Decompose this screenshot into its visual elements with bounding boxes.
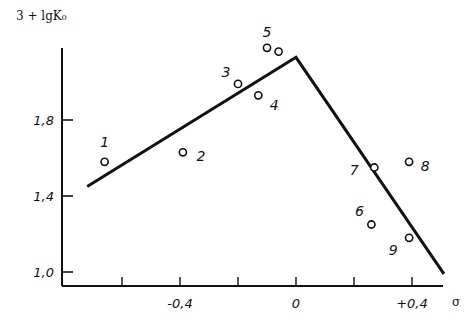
- y-axis-title: 3 + lgK₀: [16, 9, 67, 23]
- x-tick-label: -0,4: [167, 296, 192, 311]
- point-label: 9: [389, 242, 398, 258]
- data-point: [179, 149, 186, 156]
- point-label: 5: [263, 24, 272, 40]
- data-point: [234, 80, 241, 87]
- x-tick-label: 0: [292, 296, 300, 311]
- x-tick-label: +0,4: [396, 296, 428, 311]
- point-label: 7: [350, 162, 359, 178]
- point-label: 4: [270, 97, 279, 113]
- points: 123456789: [100, 24, 430, 258]
- point-label: 1: [100, 134, 109, 150]
- data-point: [263, 44, 270, 51]
- point-label: 8: [421, 158, 430, 174]
- y-tick-label: 1,8: [33, 113, 54, 128]
- data-point: [406, 158, 413, 165]
- y-tick-label: 1,4: [33, 189, 54, 204]
- data-point: [255, 92, 262, 99]
- y-tick-label: 1,0: [33, 265, 54, 280]
- data-point: [275, 48, 282, 55]
- data-point: [368, 221, 375, 228]
- data-point: [101, 158, 108, 165]
- x-axis-title: σ: [452, 295, 460, 309]
- point-label: 3: [222, 64, 231, 80]
- ticks: 1,01,41,8-0,40+0,4: [33, 113, 427, 311]
- data-point: [371, 164, 378, 171]
- chart: 1,01,41,8-0,40+0,4 123456789 3 + lgK₀ σ: [0, 0, 467, 326]
- data-point: [406, 234, 413, 241]
- point-label: 6: [355, 203, 364, 219]
- point-label: 2: [196, 148, 205, 164]
